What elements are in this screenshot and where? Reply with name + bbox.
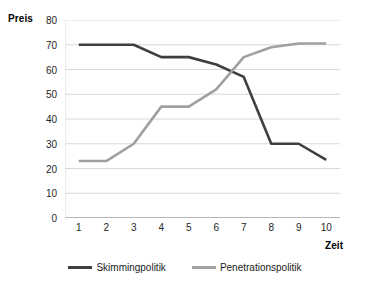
legend-label: Penetrationspolitik (220, 262, 302, 273)
x-tick-label: 3 (131, 222, 137, 233)
legend-swatch-icon (192, 266, 216, 269)
legend-label: Skimmingpolitik (96, 262, 165, 273)
y-tick-label: 10 (31, 188, 57, 199)
x-tick-label: 4 (158, 222, 164, 233)
legend-item[interactable]: Skimmingpolitik (68, 262, 165, 273)
x-axis-tick-labels: 12345678910 (65, 222, 340, 238)
gridlines (65, 20, 340, 218)
price-strategy-line-chart: Preis Zeit 01020304050607080 12345678910… (0, 0, 370, 290)
y-tick-label: 50 (31, 89, 57, 100)
y-tick-label: 0 (31, 213, 57, 224)
x-tick-label: 10 (321, 222, 332, 233)
x-tick-label: 6 (213, 222, 219, 233)
y-tick-label: 60 (31, 64, 57, 75)
series-line-skimmingpolitik (79, 45, 327, 160)
plot-area (65, 20, 340, 218)
legend-swatch-icon (68, 266, 92, 269)
legend-item[interactable]: Penetrationspolitik (192, 262, 302, 273)
plot-svg (65, 20, 340, 218)
y-tick-label: 40 (31, 114, 57, 125)
y-tick-label: 80 (31, 15, 57, 26)
x-tick-label: 9 (296, 222, 302, 233)
x-tick-label: 2 (103, 222, 109, 233)
x-tick-label: 8 (268, 222, 274, 233)
x-tick-label: 5 (186, 222, 192, 233)
y-tick-label: 20 (31, 163, 57, 174)
y-tick-label: 30 (31, 138, 57, 149)
x-tick-label: 1 (76, 222, 82, 233)
chart-legend: SkimmingpolitikPenetrationspolitik (0, 262, 370, 273)
x-tick-label: 7 (241, 222, 247, 233)
y-tick-label: 70 (31, 39, 57, 50)
